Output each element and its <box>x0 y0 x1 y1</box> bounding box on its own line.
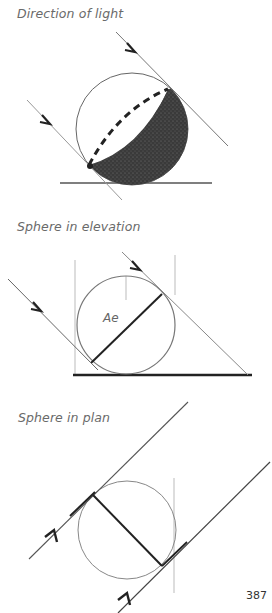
figure-direction-of-light <box>27 32 228 200</box>
arrow-icon <box>40 115 50 124</box>
shadow-diameter <box>93 495 162 566</box>
diagram-canvas: Ae <box>0 0 272 613</box>
label-ae: Ae <box>102 311 119 325</box>
light-ray-2 <box>118 462 270 613</box>
figure-sphere-in-plan <box>29 402 270 613</box>
figure-sphere-in-elevation: Ae <box>8 252 252 375</box>
arrow-icon <box>125 43 135 52</box>
arrow-icon <box>130 261 140 270</box>
light-ray-1 <box>29 402 188 559</box>
light-ray-1 <box>8 279 98 370</box>
shadow-diameter <box>91 294 162 363</box>
tangent-point <box>87 163 93 169</box>
tangent-segment <box>70 492 95 516</box>
tangent-segment <box>162 542 187 566</box>
arrow-icon <box>45 530 57 542</box>
